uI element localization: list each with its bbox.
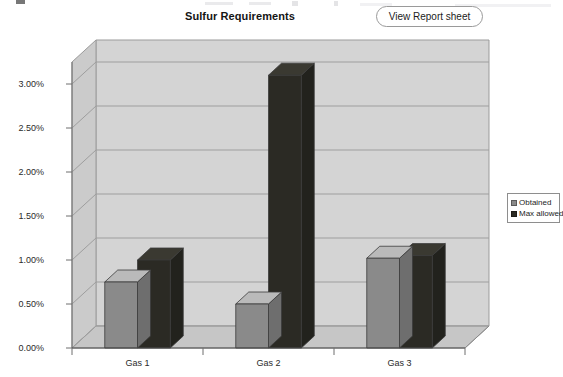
x-axis-label-gas-1: Gas 1 [125, 358, 149, 368]
y-axis-label-4: 2.00% [2, 167, 44, 177]
y-axis-label-5: 2.50% [2, 123, 44, 133]
square-swatch-icon [511, 200, 517, 206]
bar-gas-3-obtained[interactable] [367, 246, 413, 348]
bar-side-face [432, 244, 445, 348]
square-swatch-icon [511, 211, 517, 217]
legend-item-obtained[interactable]: Obtained [511, 197, 557, 208]
bar-front-face [367, 258, 400, 348]
y-axis-label-6: 3.00% [2, 79, 44, 89]
legend-label: Max allowed [519, 208, 563, 219]
plot-left-wall [72, 40, 96, 348]
legend-label: Obtained [519, 197, 551, 208]
y-axis: 0.00%0.50%1.00%1.50%2.00%2.50%3.00% [0, 0, 44, 377]
bar-front-face [105, 282, 138, 348]
y-axis-label-0: 0.00% [2, 343, 44, 353]
bar-side-face [400, 246, 413, 348]
y-axis-label-2: 1.00% [2, 255, 44, 265]
y-axis-label-3: 1.50% [2, 211, 44, 221]
x-axis-label-gas-3: Gas 3 [387, 358, 411, 368]
x-axis-label-gas-2: Gas 2 [256, 358, 280, 368]
bar-gas-1-obtained[interactable] [105, 270, 151, 348]
bar-front-face [236, 304, 269, 348]
bar-side-face [301, 63, 314, 348]
y-axis-label-1: 0.50% [2, 299, 44, 309]
bar-gas-2-obtained[interactable] [236, 292, 282, 348]
bar-side-face [138, 270, 151, 348]
bar-side-face [170, 248, 183, 348]
chart-legend: ObtainedMax allowed [507, 193, 560, 223]
legend-item-max-allowed[interactable]: Max allowed [511, 208, 557, 219]
